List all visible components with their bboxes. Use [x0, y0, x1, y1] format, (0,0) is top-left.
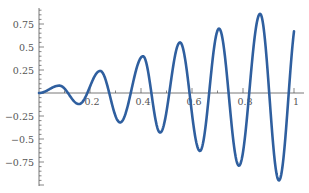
x-tick-label: 0.8 — [237, 96, 252, 107]
x-tick-label: 0.6 — [186, 96, 201, 107]
y-tick-label: 0.75 — [13, 19, 34, 30]
y-tick-label: −0.75 — [5, 157, 34, 168]
y-tick-label: −0.25 — [5, 111, 34, 122]
line-chart: 0.750.50.25−0.25−0.5−0.75 0.20.40.60.81 — [0, 0, 309, 193]
x-tick-label: 0.2 — [84, 96, 99, 107]
y-axis: 0.750.50.25−0.25−0.5−0.75 — [5, 8, 44, 186]
y-tick-label: 0.5 — [19, 42, 34, 53]
x-tick-label: 0.4 — [135, 96, 150, 107]
x-tick-label: 1 — [293, 96, 299, 107]
y-tick-label: 0.25 — [13, 65, 34, 76]
series-line — [39, 14, 294, 181]
y-tick-label: −0.5 — [11, 134, 34, 145]
